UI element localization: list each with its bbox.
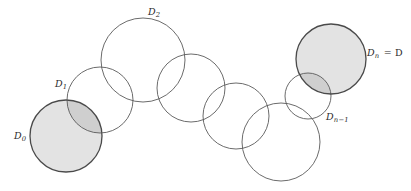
disk-outline-d3: [157, 54, 225, 122]
label-dn1: Dn−1: [326, 112, 349, 122]
overlap-lens-layer: [67, 67, 331, 133]
circle-chain-figure: D0D1D2Dn−1Dn = D: [0, 0, 411, 191]
label-dn: Dn = D: [367, 48, 404, 58]
disk-outline-d5: [242, 103, 320, 181]
circle-chain-canvas: [0, 0, 411, 191]
label-d2: D2: [148, 7, 160, 17]
label-d1: D1: [55, 79, 67, 89]
shaded-disks-layer: [30, 24, 366, 172]
disk-outline-d4: [203, 83, 269, 149]
label-d0: D0: [14, 131, 26, 141]
